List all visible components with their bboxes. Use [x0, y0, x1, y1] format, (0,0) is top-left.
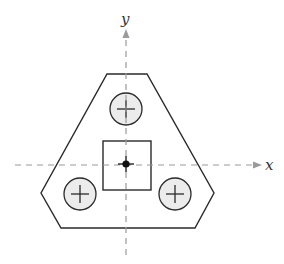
hole-bottom-left: [64, 178, 96, 210]
hole-bottom-right: [159, 178, 191, 210]
x-axis-arrow-icon: [253, 162, 262, 169]
x-axis-label: x: [265, 156, 274, 174]
y-axis-label: y: [120, 10, 130, 28]
y-axis-arrow-icon: [123, 29, 130, 38]
diagram-canvas: x y: [0, 0, 284, 264]
